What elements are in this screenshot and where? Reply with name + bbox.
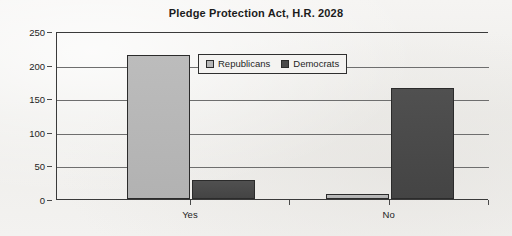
x-axis-tick-mark (389, 200, 390, 205)
bar-democrats-no (391, 88, 454, 199)
y-axis-tick-mark (47, 166, 52, 167)
legend-swatch-republicans-icon (206, 60, 214, 68)
y-axis: 050100150200250 (0, 32, 52, 200)
legend-item-republicans: Republicans (206, 58, 270, 69)
legend-item-democrats: Democrats (281, 58, 339, 69)
legend-swatch-democrats-icon (281, 60, 289, 68)
y-axis-tick-mark (47, 32, 52, 33)
legend-label-democrats: Democrats (293, 58, 339, 69)
y-axis-tick-label: 200 (29, 60, 45, 71)
x-axis: YesNo (56, 200, 488, 230)
x-axis-tick-mark (488, 200, 489, 205)
x-axis-category-label: No (383, 209, 395, 220)
x-axis-tick-mark (190, 200, 191, 205)
y-axis-tick-mark (47, 99, 52, 100)
y-axis-tick-mark (47, 133, 52, 134)
y-axis-tick-label: 50 (34, 161, 45, 172)
y-axis-tick-label: 250 (29, 27, 45, 38)
bar-democrats-yes (192, 180, 255, 199)
x-axis-category-label: Yes (182, 209, 198, 220)
x-axis-tick-mark (289, 200, 290, 205)
bar-republicans-yes (127, 55, 190, 199)
legend-label-republicans: Republicans (218, 58, 270, 69)
bar-republicans-no (326, 194, 389, 199)
chart-title: Pledge Protection Act, H.R. 2028 (0, 7, 512, 19)
y-axis-tick-label: 100 (29, 127, 45, 138)
chart-legend: Republicans Democrats (198, 54, 347, 74)
chart-page: Pledge Protection Act, H.R. 2028 0501001… (0, 0, 512, 236)
y-axis-tick-label: 150 (29, 94, 45, 105)
y-axis-tick-label: 0 (40, 195, 45, 206)
y-axis-tick-mark (47, 66, 52, 67)
y-axis-tick-mark (47, 200, 52, 201)
